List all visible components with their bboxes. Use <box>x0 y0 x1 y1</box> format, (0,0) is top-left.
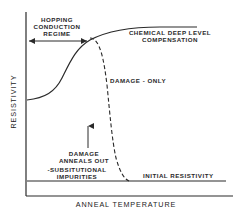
resistivity-anneal-diagram: HOPPING CONDUCTION REGIME CHEMICAL DEEP … <box>0 0 243 215</box>
hopping-label: HOPPING CONDUCTION REGIME <box>28 16 86 37</box>
y-axis-label: RESISTIVITY <box>10 79 17 129</box>
x-axis-label: ANNEAL TEMPERATURE <box>66 201 186 208</box>
substitutional-impurities-label: -SUBSITUTIONAL IMPURITIES <box>42 166 112 180</box>
chemical-compensation-label: CHEMICAL DEEP LEVEL COMPENSATION <box>122 29 218 43</box>
initial-resistivity-label: INITIAL RESISTIVITY <box>143 172 214 179</box>
damage-only-label: DAMAGE - ONLY <box>110 77 166 84</box>
damage-anneals-out-label: DAMAGE ANNEALS OUT <box>55 150 113 164</box>
